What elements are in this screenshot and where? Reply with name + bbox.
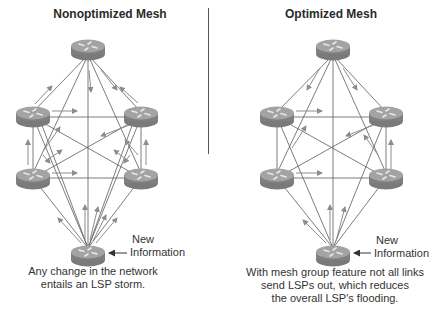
caption-line: the overall LSP's flooding.	[240, 292, 430, 305]
router-icon	[124, 107, 158, 128]
caption-line: With mesh group feature not all links	[240, 266, 430, 279]
right-caption: With mesh group feature not all links se…	[240, 266, 430, 305]
new-info-line-2: Information	[374, 247, 429, 260]
right-routers	[260, 40, 403, 267]
left-caption: Any change in the network entails an LSP…	[18, 265, 168, 291]
router-icon	[71, 246, 105, 267]
new-info-line-2: Information	[130, 246, 185, 259]
router-icon	[71, 40, 105, 61]
right-mesh-links	[277, 55, 386, 248]
new-info-line-1: New	[374, 234, 429, 247]
right-lsp-arrows	[292, 68, 391, 243]
router-icon	[124, 169, 158, 190]
caption-line: entails an LSP storm.	[18, 278, 168, 291]
right-new-info-label: New Information	[374, 234, 429, 260]
router-icon	[16, 169, 50, 190]
left-mesh-links	[33, 55, 141, 248]
router-icon	[316, 246, 350, 267]
caption-line: send LSPs out, which reduces	[240, 279, 430, 292]
left-new-info-label: New Information	[130, 233, 185, 259]
new-info-line-1: New	[130, 233, 185, 246]
router-icon	[369, 169, 403, 190]
left-lsp-arrows	[28, 70, 146, 243]
router-icon	[16, 107, 50, 128]
router-icon	[369, 107, 403, 128]
router-icon	[260, 169, 294, 190]
router-icon	[260, 107, 294, 128]
router-icon	[316, 40, 350, 61]
caption-line: Any change in the network	[18, 265, 168, 278]
